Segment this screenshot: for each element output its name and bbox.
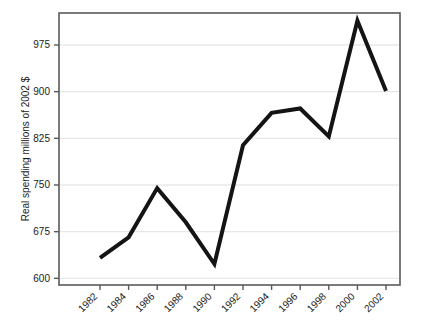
x-tick-label: 1988 bbox=[162, 290, 186, 314]
x-tick-label: 1998 bbox=[305, 290, 329, 314]
x-tick-label: 1992 bbox=[219, 290, 243, 314]
x-tick-label: 1986 bbox=[133, 290, 157, 314]
x-tick-label: 1984 bbox=[105, 290, 129, 314]
y-tick-label: 750 bbox=[33, 179, 50, 190]
y-axis-title: Real spending millions of 2002 $ bbox=[20, 76, 31, 221]
chart-container: 600675750825900975 198219841986198819901… bbox=[0, 0, 426, 328]
x-axis: 1982198419861988199019921994199619982000… bbox=[76, 285, 386, 314]
x-tick-label: 1982 bbox=[76, 290, 100, 314]
y-tick-label: 900 bbox=[33, 86, 50, 97]
x-tick-label: 2002 bbox=[362, 290, 386, 314]
y-tick-label: 600 bbox=[33, 273, 50, 284]
y-tick-label: 675 bbox=[33, 226, 50, 237]
x-tick-label: 1990 bbox=[190, 290, 214, 314]
x-tick-label: 1994 bbox=[248, 290, 272, 314]
x-tick-label: 1996 bbox=[276, 290, 300, 314]
y-axis: 600675750825900975 bbox=[33, 39, 59, 283]
y-tick-label: 825 bbox=[33, 133, 50, 144]
y-tick-label: 975 bbox=[33, 39, 50, 50]
line-chart: 600675750825900975 198219841986198819901… bbox=[0, 0, 426, 328]
x-tick-label: 2000 bbox=[333, 290, 357, 314]
